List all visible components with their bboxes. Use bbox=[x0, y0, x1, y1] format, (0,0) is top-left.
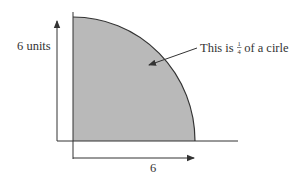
vertical-label: 6 units bbox=[17, 39, 51, 53]
annotation-text: This is 1 4 of a cirle bbox=[200, 40, 289, 55]
quarter-circle-shape bbox=[73, 17, 195, 141]
annotation-prefix: This is bbox=[200, 41, 234, 55]
svg-text:This is: This is bbox=[200, 41, 234, 55]
annotation-suffix: of a cirle bbox=[241, 41, 289, 55]
horizontal-label: 6 bbox=[150, 161, 156, 175]
svg-text:of a cirle: of a cirle bbox=[241, 41, 289, 55]
quarter-circle-diagram: 6 units 6 This is 1 4 of a cirle bbox=[0, 0, 298, 184]
